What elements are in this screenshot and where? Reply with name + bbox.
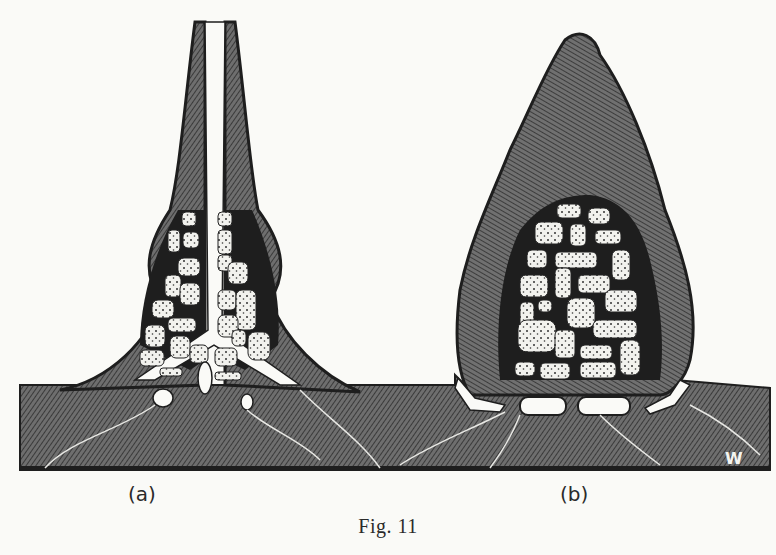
- figure-caption: Fig. 11: [0, 515, 776, 538]
- panel-label-b: (b): [560, 482, 588, 506]
- figure-illustration: W: [0, 0, 776, 510]
- artist-signature: W: [725, 449, 743, 468]
- panel-label-a: (a): [128, 482, 156, 506]
